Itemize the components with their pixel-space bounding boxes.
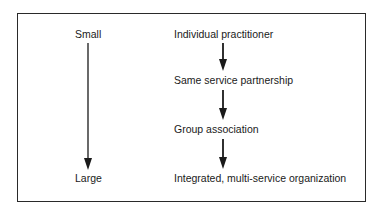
stage-arrow-2-head <box>219 108 227 120</box>
stage-arrow-1-head <box>219 59 227 71</box>
scale-arrow <box>84 43 92 170</box>
stage-arrow-3-head <box>219 157 227 169</box>
stage-arrow-1 <box>219 43 227 71</box>
scale-arrow-head <box>84 158 92 170</box>
stage-arrow-3 <box>219 139 227 169</box>
stage-arrow-2 <box>219 90 227 120</box>
arrows-layer <box>0 0 385 210</box>
